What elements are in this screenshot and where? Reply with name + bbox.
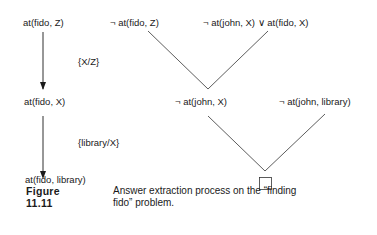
- clause-not-at-fido-z: ¬ at(fido, Z): [110, 17, 159, 28]
- clause-john-implies-fido: ¬ at(john, X) ∨ at(fido, X): [203, 17, 308, 28]
- substitution-library-x: {library/X}: [78, 137, 119, 148]
- node-at-fido-x: at(fido, X): [24, 96, 65, 107]
- figure-label: Figure 11.11: [26, 185, 60, 209]
- arrowhead-1-icon: [40, 82, 46, 90]
- node-at-fido-library: at(fido, library): [25, 174, 86, 185]
- clause-not-at-john-x: ¬ at(john, X): [175, 96, 227, 107]
- clause-not-at-john-library: ¬ at(john, library): [279, 96, 351, 107]
- node-at-fido-z: at(fido, Z): [23, 17, 64, 28]
- substitution-x-z: {X/Z}: [78, 56, 99, 67]
- caption-text: Answer extraction process on the “findin…: [113, 185, 303, 209]
